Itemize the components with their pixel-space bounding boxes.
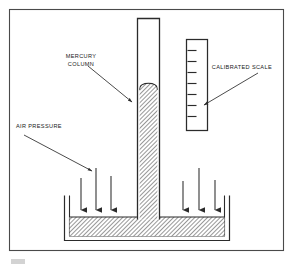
label-mercury-column-line2: COLUMN	[68, 61, 94, 67]
mercury-reservoir-fill	[70, 217, 225, 236]
barometer-figure: MERCURY COLUMN CALIBRATED SCALE AIR PRES…	[0, 0, 293, 265]
label-mercury-column-line1: MERCURY	[66, 53, 97, 59]
barometer-diagram: MERCURY COLUMN CALIBRATED SCALE AIR PRES…	[0, 0, 293, 265]
calibrated-scale-box[interactable]	[187, 40, 208, 131]
label-calibrated-scale: CALIBRATED SCALE	[212, 64, 272, 70]
label-air-pressure: AIR PRESSURE	[16, 123, 62, 129]
footer-artifact	[11, 259, 25, 264]
mercury-column-fill	[139, 83, 157, 220]
